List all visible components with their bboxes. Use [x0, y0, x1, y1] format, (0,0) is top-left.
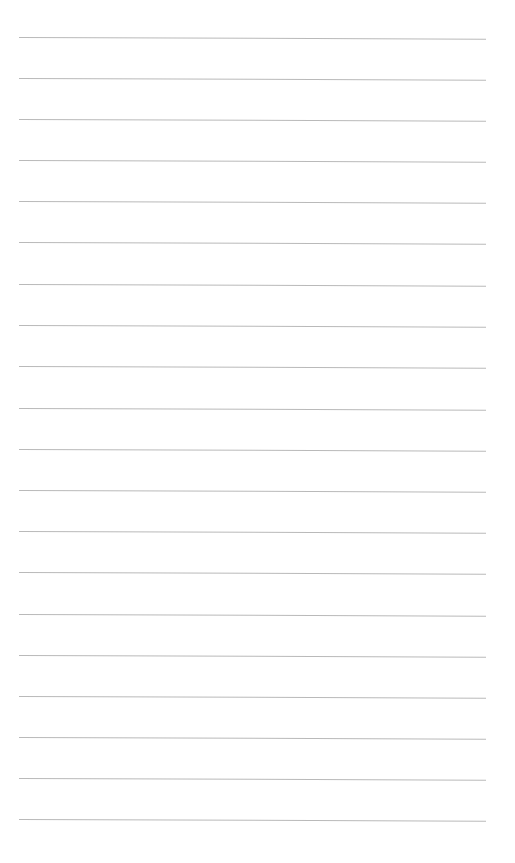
- ruled-line: [19, 408, 486, 411]
- ruled-line: [19, 490, 486, 493]
- ruled-line: [19, 78, 486, 81]
- ruled-line: [19, 119, 486, 122]
- lined-paper-page: [0, 0, 515, 863]
- ruled-line: [19, 737, 486, 740]
- ruled-line: [19, 242, 486, 245]
- ruled-line: [19, 284, 486, 287]
- ruled-line: [19, 201, 486, 204]
- ruled-line: [19, 696, 486, 699]
- ruled-line: [19, 572, 486, 575]
- ruled-line: [19, 366, 486, 369]
- ruled-line: [19, 325, 486, 328]
- ruled-line: [19, 37, 486, 40]
- ruled-line: [19, 819, 486, 822]
- ruled-line: [19, 449, 486, 452]
- ruled-line: [19, 614, 486, 617]
- ruled-line: [19, 655, 486, 658]
- ruled-line: [19, 160, 486, 163]
- ruled-line: [19, 531, 486, 534]
- ruled-line: [19, 778, 486, 781]
